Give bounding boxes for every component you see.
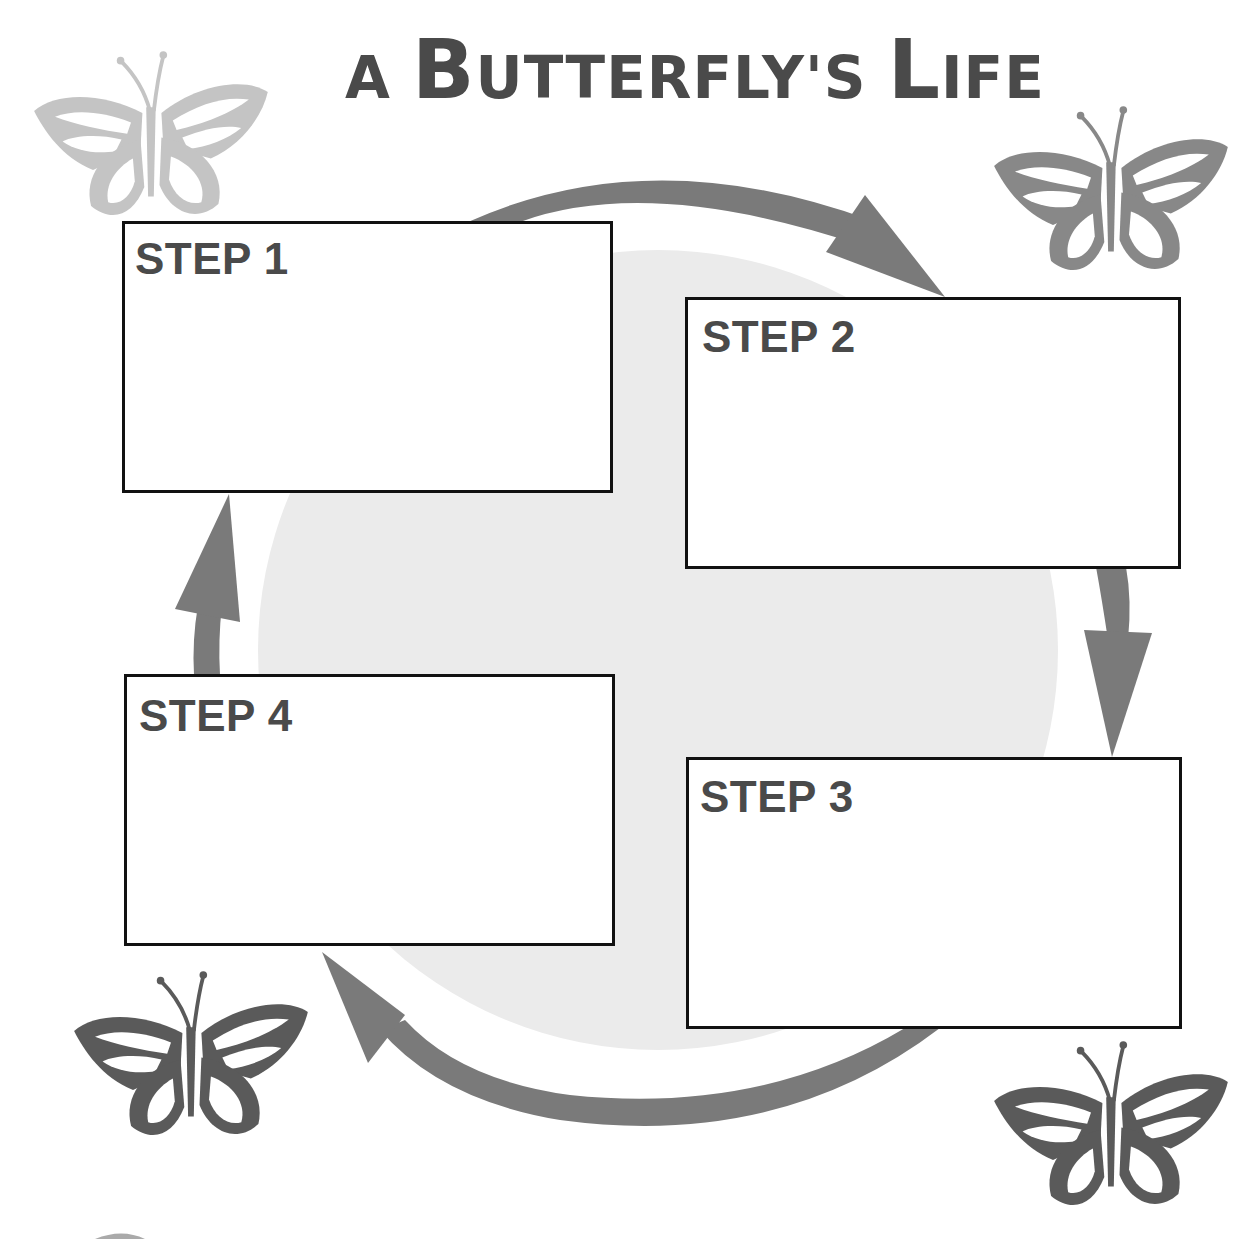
butterfly-icon-bottom-right xyxy=(994,1041,1228,1205)
title-part: L xyxy=(888,22,941,117)
step-3-label: STEP 3 xyxy=(700,772,854,822)
partial-badge-icon xyxy=(95,1234,145,1239)
step-2-box[interactable]: STEP 2 xyxy=(685,297,1181,569)
butterfly-icon-top-left xyxy=(34,51,268,215)
title-part: UTTERFLY'S xyxy=(476,44,888,112)
cycle-artwork xyxy=(0,0,1251,1239)
title-part: IFE xyxy=(941,44,1045,112)
step-3-box[interactable]: STEP 3 xyxy=(686,757,1182,1029)
title-part: A xyxy=(345,44,412,112)
step-4-label: STEP 4 xyxy=(139,691,293,741)
title-part: B xyxy=(412,22,476,117)
step-4-box[interactable]: STEP 4 xyxy=(124,674,615,946)
butterfly-icon-top-right xyxy=(994,106,1228,270)
step-2-label: STEP 2 xyxy=(702,312,856,362)
step-1-label: STEP 1 xyxy=(135,234,289,284)
butterfly-icon-bottom-left xyxy=(74,971,308,1135)
step-1-box[interactable]: STEP 1 xyxy=(122,221,613,493)
page-title: A BUTTERFLY'S LIFE xyxy=(345,22,955,117)
arrow-step4-to-step1 xyxy=(175,494,240,675)
arrow-step2-to-step3 xyxy=(1084,567,1152,757)
